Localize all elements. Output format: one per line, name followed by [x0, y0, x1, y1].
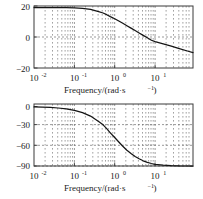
phase-xtick-label-1e-1: 10 -1	[70, 170, 87, 181]
phase-xtick-mantissa-2: 10	[110, 171, 120, 181]
phase-major-vgrid	[74, 104, 155, 166]
magnitude-xtick-exponent-3: 1	[163, 72, 166, 78]
phase-subplot: 0 −30 −60 −90 10 -2 10 -1 10 0 10 1 Freq…	[16, 102, 193, 194]
magnitude-xtick-exponent-1: -1	[82, 72, 87, 78]
phase-ytick-label-minus30: −30	[16, 120, 31, 130]
magnitude-xtick-label-1e0: 10 0	[110, 72, 126, 83]
phase-xtick-mantissa-3: 10	[151, 171, 161, 181]
magnitude-yticks	[34, 6, 38, 68]
magnitude-ytick-label-20: 20	[21, 2, 31, 12]
phase-minor-vgrid	[45, 104, 189, 166]
phase-ytick-label-minus90: −90	[16, 161, 31, 171]
magnitude-xtick-label-1e1: 10 1	[151, 72, 167, 83]
phase-xtick-mantissa-0: 10	[30, 171, 40, 181]
magnitude-xtick-mantissa-0: 10	[30, 73, 40, 83]
phase-xtick-exponent-2: 0	[123, 170, 126, 176]
magnitude-xtick-exponent-2: 0	[123, 72, 126, 78]
magnitude-xtick-exponent-0: -2	[42, 72, 47, 78]
bode-plot-figure: 20 0 −20 10 -2 10 -1 10 0 10 1 Frequency…	[0, 0, 203, 199]
magnitude-subplot: 20 0 −20 10 -2 10 -1 10 0 10 1 Frequency…	[16, 2, 193, 96]
phase-xaxis-label: Frequency/(rad·s −1 )	[64, 183, 157, 194]
phase-xtick-label-1e1: 10 1	[151, 170, 167, 181]
magnitude-ytick-label-minus20: −20	[16, 64, 31, 74]
magnitude-xaxis-label: Frequency/(rad·s −1 )	[64, 85, 157, 96]
phase-xtick-exponent-3: 1	[163, 170, 166, 176]
magnitude-xtick-label-1e-1: 10 -1	[70, 72, 87, 83]
magnitude-xtick-mantissa-2: 10	[110, 73, 120, 83]
bode-plot-svg: 20 0 −20 10 -2 10 -1 10 0 10 1 Frequency…	[0, 0, 203, 199]
phase-ytick-label-0: 0	[26, 102, 31, 112]
phase-xaxis-label-main: Frequency/(rad·s	[64, 183, 126, 193]
phase-xaxis-label-close: )	[154, 183, 157, 193]
magnitude-xtick-label-1e-2: 10 -2	[30, 72, 47, 83]
magnitude-xaxis-label-main: Frequency/(rad·s	[64, 85, 126, 95]
phase-xtick-exponent-1: -1	[82, 170, 87, 176]
phase-xtick-exponent-0: -2	[42, 170, 47, 176]
phase-yticks	[34, 107, 38, 167]
magnitude-xtick-mantissa-3: 10	[151, 73, 161, 83]
magnitude-xticks	[74, 65, 155, 69]
phase-xtick-label-1e0: 10 0	[110, 170, 126, 181]
magnitude-xtick-mantissa-1: 10	[70, 73, 80, 83]
magnitude-xaxis-label-close: )	[154, 85, 157, 95]
phase-ytick-label-minus60: −60	[16, 141, 31, 151]
phase-xtick-mantissa-1: 10	[70, 171, 80, 181]
phase-xtick-label-1e-2: 10 -2	[30, 170, 47, 181]
magnitude-ytick-label-0: 0	[26, 33, 31, 43]
phase-xticks	[74, 163, 155, 167]
